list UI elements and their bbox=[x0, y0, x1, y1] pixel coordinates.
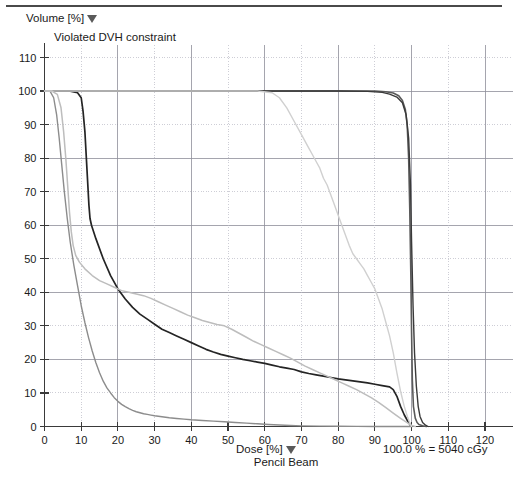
axis-ticks bbox=[40, 58, 485, 432]
svg-text:0: 0 bbox=[30, 421, 36, 433]
svg-text:70: 70 bbox=[295, 434, 307, 446]
svg-text:110: 110 bbox=[19, 52, 37, 64]
dvh-plot[interactable]: 0102030405060708090100110010203040506070… bbox=[0, 0, 518, 495]
grid-minor-lines bbox=[45, 45, 514, 426]
normalization-label: 100.0 % = 5040 cGy bbox=[383, 443, 488, 455]
svg-text:90: 90 bbox=[24, 119, 36, 131]
svg-text:50: 50 bbox=[24, 253, 36, 265]
dvh-window: Volume [%] Violated DVH constraint 01020… bbox=[0, 0, 518, 495]
svg-text:40: 40 bbox=[185, 434, 197, 446]
svg-text:10: 10 bbox=[75, 434, 87, 446]
svg-text:20: 20 bbox=[24, 353, 36, 365]
plan-name-label: Pencil Beam bbox=[236, 456, 336, 468]
x-axis-title: Dose [%] bbox=[236, 443, 296, 455]
x-axis-dropdown-icon[interactable] bbox=[286, 446, 296, 454]
x-axis-title-label: Dose [%] bbox=[236, 443, 283, 455]
svg-text:80: 80 bbox=[332, 434, 344, 446]
svg-text:40: 40 bbox=[24, 286, 36, 298]
svg-text:20: 20 bbox=[112, 434, 124, 446]
svg-text:80: 80 bbox=[24, 152, 36, 164]
svg-text:0: 0 bbox=[41, 434, 47, 446]
violated-constraint-label: Violated DVH constraint bbox=[54, 31, 176, 43]
svg-text:10: 10 bbox=[24, 387, 36, 399]
svg-text:60: 60 bbox=[24, 219, 36, 231]
axis-tick-labels: 0102030405060708090100110010203040506070… bbox=[18, 52, 494, 446]
svg-text:50: 50 bbox=[222, 434, 234, 446]
svg-text:70: 70 bbox=[24, 186, 36, 198]
svg-text:30: 30 bbox=[24, 320, 36, 332]
plot-axes bbox=[45, 43, 514, 426]
svg-text:90: 90 bbox=[369, 434, 381, 446]
svg-text:100: 100 bbox=[18, 85, 36, 97]
svg-text:30: 30 bbox=[149, 434, 161, 446]
